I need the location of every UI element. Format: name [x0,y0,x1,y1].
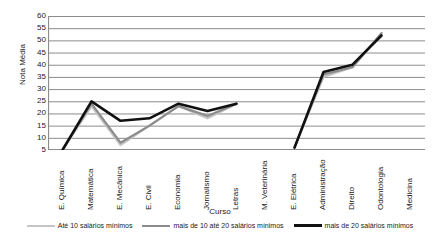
y-axis-tick-labels: 60555045403530252015105 [22,0,46,160]
x-tick-label: Economia [174,174,182,210]
y-tick-label: 25 [24,97,46,105]
x-tick-label: Administração [319,159,327,210]
x-axis-tick-labels: E. QuímicaMatemáticaE. MecânicaE. CivilE… [48,152,425,210]
legend-label: Até 10 salários mínimos [58,222,133,229]
y-tick-label: 55 [24,24,46,32]
y-tick-label: 30 [24,85,46,93]
plot-area [48,16,425,150]
x-tick-label: E. Mecânica [116,166,124,210]
y-tick-label: 15 [24,122,46,130]
y-tick-label: 5 [24,146,46,154]
legend-color-swatch [294,224,322,227]
x-tick-label: E. Elétrica [290,174,298,210]
y-tick-label: 60 [24,12,46,20]
x-tick-label: M. Veterinária [261,161,269,210]
y-tick-label: 10 [24,134,46,142]
y-tick-label: 20 [24,109,46,117]
y-tick-label: 40 [24,61,46,69]
legend-label: mais de 20 salários mínimos [325,222,414,229]
legend-item: mais de 10 até 20 salários mínimos [142,222,283,229]
y-tick-label: 50 [24,36,46,44]
x-axis-title: Curso [0,207,440,216]
chart-container: Nota Média 60555045403530252015105 E. Qu… [0,0,440,236]
legend-item: mais de 20 salários mínimos [294,222,414,229]
legend-color-swatch [142,225,170,227]
legend-color-swatch [27,225,55,227]
chart-lines-svg [48,16,425,150]
legend-label: mais de 10 até 20 salários mínimos [173,222,283,229]
legend-item: Até 10 salários mínimos [27,222,133,229]
x-tick-label: Medicina [406,178,414,210]
y-tick-label: 35 [24,73,46,81]
x-tick-label: Jornalismo [203,171,211,210]
y-tick-label: 45 [24,49,46,57]
x-tick-label: Matemática [87,169,95,210]
x-tick-label: E. Química [58,170,66,210]
x-tick-label: Odontologia [377,167,385,210]
chart-legend: Até 10 salários mínimosmais de 10 até 20… [0,222,440,229]
